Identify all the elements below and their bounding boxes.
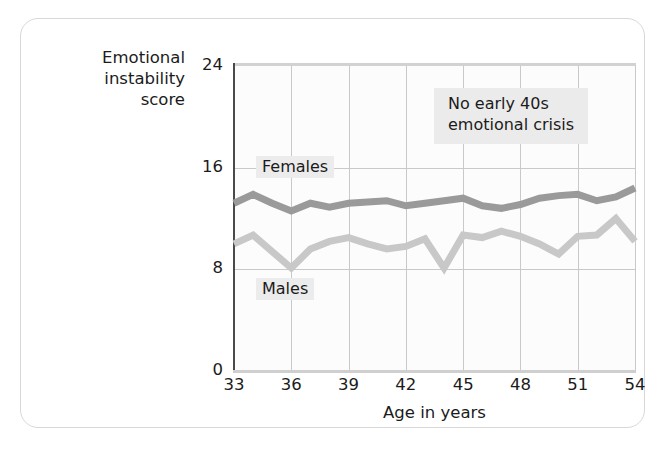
x-tick-label: 54 xyxy=(615,375,655,394)
x-tick-label: 36 xyxy=(271,375,311,394)
x-axis-title: Age in years xyxy=(234,403,635,422)
chart-annotation: No early 40s emotional crisis xyxy=(434,88,588,144)
x-tick-label: 33 xyxy=(214,375,254,394)
y-axis-title: Emotional instability score xyxy=(35,47,185,110)
plot-area: Females Males No early 40s emotional cri… xyxy=(234,66,635,371)
x-tick-label: 39 xyxy=(329,375,369,394)
series-label-males: Males xyxy=(256,278,314,300)
series-label-females: Females xyxy=(256,156,334,178)
y-tick-label: 8 xyxy=(183,258,223,277)
y-tick-label: 24 xyxy=(183,55,223,74)
x-tick-label: 51 xyxy=(558,375,598,394)
x-tick-label: 48 xyxy=(500,375,540,394)
x-tick-label: 42 xyxy=(386,375,426,394)
x-tick-label: 45 xyxy=(443,375,483,394)
y-tick-label: 16 xyxy=(183,157,223,176)
series-line-females xyxy=(234,188,635,211)
gridline-vertical xyxy=(635,66,636,371)
series-line-males xyxy=(234,219,635,269)
figure-card: Emotional instability score Females Male… xyxy=(20,18,645,428)
